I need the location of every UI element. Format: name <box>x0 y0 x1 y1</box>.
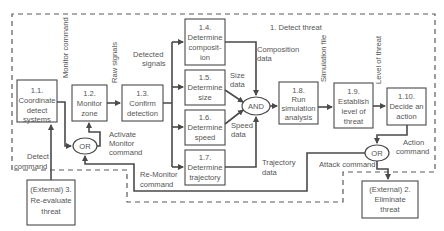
svg-text:size: size <box>198 93 212 102</box>
external-3-re-evaluate-threat[interactable]: (External) 3. Re-evaluate threat <box>27 180 75 225</box>
svg-text:(External) 2.: (External) 2. <box>369 185 410 194</box>
svg-text:1.7.: 1.7. <box>199 153 212 162</box>
svg-text:Activate: Activate <box>109 130 136 139</box>
svg-text:analysis: analysis <box>285 113 313 122</box>
svg-text:Composition: Composition <box>257 45 299 54</box>
and-gate: AND <box>242 97 270 115</box>
svg-text:Determine: Determine <box>187 163 222 172</box>
svg-text:speed: speed <box>195 133 216 142</box>
threat-detection-diagram: 1. Detect threat 1.1. Coordinate detect … <box>0 0 444 231</box>
label-raw-signals: Raw signals <box>110 42 119 83</box>
svg-text:detect: detect <box>27 106 49 115</box>
svg-text:(External) 3.: (External) 3. <box>30 185 71 194</box>
svg-text:command: command <box>109 148 142 157</box>
svg-text:trajectory: trajectory <box>189 173 220 182</box>
svg-text:command: command <box>140 180 173 189</box>
process-1-2[interactable]: 1.2. Monitor zone <box>72 85 107 121</box>
svg-text:Monitor: Monitor <box>77 99 103 108</box>
process-1-1[interactable]: 1.1. Coordinate detect systems <box>17 80 57 124</box>
svg-text:Decide an: Decide an <box>389 102 423 111</box>
svg-text:data: data <box>257 54 273 63</box>
svg-text:1.3.: 1.3. <box>136 89 149 98</box>
svg-text:1.6.: 1.6. <box>199 113 212 122</box>
svg-text:simulation: simulation <box>281 104 315 113</box>
svg-text:detection: detection <box>127 109 158 118</box>
svg-text:1.8.: 1.8. <box>292 86 305 95</box>
svg-text:zone: zone <box>81 109 97 118</box>
svg-text:threat: threat <box>41 207 61 216</box>
process-1-10[interactable]: 1.10. Decide an action <box>387 88 426 125</box>
process-1-5[interactable]: 1.5. Determine size <box>185 70 225 105</box>
svg-text:Confirm: Confirm <box>129 99 156 108</box>
svg-text:threat: threat <box>344 117 364 126</box>
process-1-3[interactable]: 1.3. Confirm detection <box>122 85 163 121</box>
or-gate-right: OR <box>365 145 389 161</box>
flow-attack-command <box>377 161 388 179</box>
svg-text:Re-evaluate: Re-evaluate <box>31 196 72 205</box>
svg-text:command: command <box>14 162 47 171</box>
svg-text:data: data <box>231 130 247 139</box>
svg-text:Determine: Determine <box>187 83 222 92</box>
svg-text:Eliminate: Eliminate <box>374 195 405 204</box>
svg-text:Determine: Determine <box>187 123 222 132</box>
svg-text:OR: OR <box>371 149 383 158</box>
svg-text:action: action <box>396 112 416 121</box>
svg-text:Trajectory: Trajectory <box>262 158 296 167</box>
svg-text:Speed: Speed <box>231 121 253 130</box>
svg-text:Re-Monitor: Re-Monitor <box>140 170 178 179</box>
process-1-8[interactable]: 1.8. Run simulation analysis <box>279 82 318 124</box>
svg-text:command: command <box>396 147 429 156</box>
svg-text:Attack command: Attack command <box>319 160 376 169</box>
svg-text:Establish: Establish <box>338 97 369 106</box>
process-1-7[interactable]: 1.7. Determine trajectory <box>185 150 225 185</box>
svg-text:threat: threat <box>380 205 400 214</box>
svg-text:Determine: Determine <box>187 33 222 42</box>
label-monitor-command: Monitor command <box>61 17 70 78</box>
boundary-label: 1. Detect threat <box>270 23 323 32</box>
svg-text:Run: Run <box>292 95 306 104</box>
svg-text:Action: Action <box>403 138 424 147</box>
process-1-4[interactable]: 1.4. Determine composit- ion <box>185 19 225 65</box>
svg-text:ion: ion <box>200 53 210 62</box>
svg-text:data: data <box>262 168 278 177</box>
process-1-9[interactable]: 1.9. Establish level of threat <box>334 83 373 128</box>
svg-text:Size: Size <box>230 71 245 80</box>
external-2-eliminate-threat[interactable]: (External) 2. Eliminate threat <box>362 181 418 218</box>
svg-text:1.4.: 1.4. <box>199 23 212 32</box>
svg-text:1.2.: 1.2. <box>83 89 96 98</box>
svg-text:composit-: composit- <box>189 43 222 52</box>
svg-text:Detected: Detected <box>133 50 163 59</box>
svg-text:AND: AND <box>248 102 265 111</box>
label-level-of-threat: Level of threat <box>374 35 383 84</box>
process-1-6[interactable]: 1.6. Determine speed <box>185 110 225 145</box>
svg-text:signals: signals <box>142 59 166 68</box>
svg-text:1.9.: 1.9. <box>347 87 360 96</box>
flow-size-data <box>225 90 243 102</box>
svg-text:Detect: Detect <box>27 152 50 161</box>
svg-text:OR: OR <box>79 142 91 151</box>
svg-text:level of: level of <box>341 107 366 116</box>
svg-text:data: data <box>230 80 246 89</box>
flow-monitor-command <box>57 102 71 146</box>
svg-text:1.1.: 1.1. <box>31 86 44 95</box>
svg-text:Coordinate: Coordinate <box>18 96 55 105</box>
or-gate-left: OR <box>73 138 97 154</box>
svg-text:systems: systems <box>23 115 51 124</box>
svg-text:1.10.: 1.10. <box>398 92 415 101</box>
svg-text:Monitor: Monitor <box>109 139 135 148</box>
svg-text:1.5.: 1.5. <box>199 73 212 82</box>
label-simulation-file: Simulation file <box>319 35 328 82</box>
